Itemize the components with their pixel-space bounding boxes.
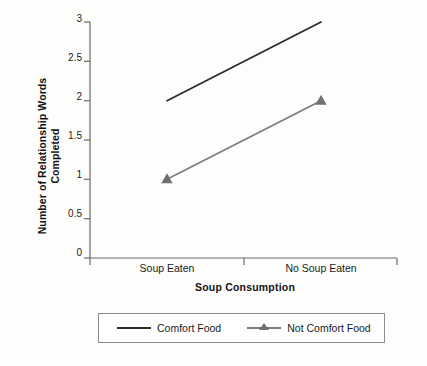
y-axis-ticks — [84, 22, 90, 258]
legend-swatch-not-comfort-food — [247, 322, 281, 334]
line-icon — [117, 327, 151, 329]
legend-label-not-comfort-food: Not Comfort Food — [287, 322, 370, 334]
chart-figure: Number of Relationship Words Completed 0… — [0, 0, 427, 366]
series-line-comfort-food — [167, 22, 321, 101]
legend-entry-comfort-food: Comfort Food — [117, 314, 221, 342]
x-axis-ticks — [90, 258, 397, 265]
triangle-marker-icon — [259, 323, 269, 330]
legend-swatch-comfort-food — [117, 322, 151, 334]
plot-area — [0, 0, 427, 366]
series-line-not-comfort-food — [167, 101, 321, 180]
chart-legend: Comfort Food Not Comfort Food — [98, 313, 385, 343]
legend-entry-not-comfort-food: Not Comfort Food — [247, 314, 370, 342]
marker-not-comfort-food-no-soup-eaten — [315, 95, 326, 105]
legend-label-comfort-food: Comfort Food — [157, 322, 221, 334]
